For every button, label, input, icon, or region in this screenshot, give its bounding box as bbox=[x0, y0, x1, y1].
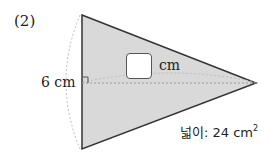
problem-number: (2) bbox=[14, 12, 35, 30]
base-length-label: 6 cm bbox=[41, 74, 75, 90]
area-label: 넓이: 24 cm2 bbox=[180, 122, 258, 141]
answer-input-box[interactable] bbox=[126, 53, 152, 79]
area-exponent: 2 bbox=[253, 124, 258, 133]
answer-unit-label: cm bbox=[159, 57, 180, 73]
area-text: 넓이: 24 cm bbox=[180, 125, 253, 140]
